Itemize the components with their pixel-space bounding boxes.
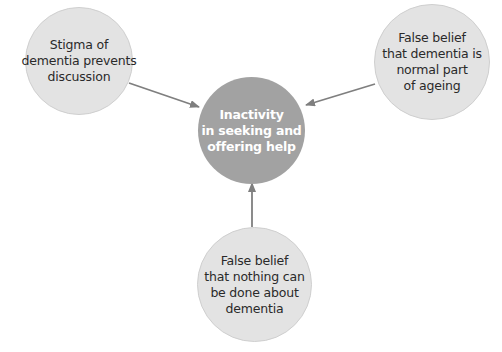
node-inactivity: Inactivity in seeking and offering help xyxy=(198,77,305,184)
node-normal-ageing-label: False belief that dementia is normal par… xyxy=(382,30,482,94)
node-nothing-can-be-done-label: False belief that nothing can be done ab… xyxy=(204,253,304,317)
node-nothing-can-be-done: False belief that nothing can be done ab… xyxy=(197,227,312,342)
node-normal-ageing: False belief that dementia is normal par… xyxy=(374,4,490,120)
arrow-left-to-center xyxy=(129,83,199,107)
node-stigma-label: Stigma of dementia prevents discussion xyxy=(22,37,137,85)
arrow-right-to-center xyxy=(306,84,375,105)
node-stigma: Stigma of dementia prevents discussion xyxy=(25,7,133,115)
node-inactivity-label: Inactivity in seeking and offering help xyxy=(201,107,301,155)
cause-diagram: Stigma of dementia prevents discussion F… xyxy=(0,0,502,352)
